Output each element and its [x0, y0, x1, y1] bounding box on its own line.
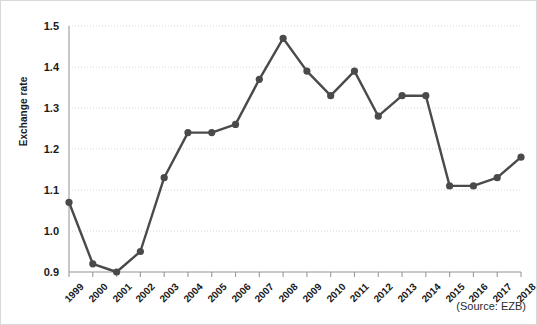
data-point[interactable] [256, 76, 263, 83]
data-point[interactable] [446, 182, 453, 189]
data-point[interactable] [184, 129, 191, 136]
data-point[interactable] [494, 174, 501, 181]
data-line [69, 38, 521, 272]
gridlines-group [69, 26, 521, 272]
data-point[interactable] [517, 154, 524, 161]
data-point[interactable] [280, 35, 287, 42]
data-point-markers-group [65, 35, 524, 276]
chart-figure: Exchange rate 0.91.01.11.21.31.41.5 1999… [0, 0, 537, 325]
data-point[interactable] [137, 248, 144, 255]
data-point[interactable] [398, 92, 405, 99]
source-note: (Source: EZB) [456, 300, 526, 312]
data-point[interactable] [351, 68, 358, 75]
x-tick-marks-group [69, 272, 521, 277]
data-point[interactable] [65, 199, 72, 206]
data-point[interactable] [232, 121, 239, 128]
data-point[interactable] [208, 129, 215, 136]
data-point[interactable] [89, 260, 96, 267]
data-point[interactable] [303, 68, 310, 75]
y-tick-label: 1.4 [44, 61, 59, 73]
y-tick-label: 1.5 [44, 20, 59, 32]
y-tick-label: 1.3 [44, 102, 59, 114]
data-point[interactable] [422, 92, 429, 99]
line-chart-plot [1, 1, 537, 325]
data-point[interactable] [161, 174, 168, 181]
data-point[interactable] [327, 92, 334, 99]
y-tick-label: 1.2 [44, 143, 59, 155]
y-tick-label: 0.9 [44, 266, 59, 278]
y-tick-label: 1.0 [44, 225, 59, 237]
data-point[interactable] [375, 113, 382, 120]
data-point[interactable] [470, 182, 477, 189]
data-point[interactable] [113, 268, 120, 275]
y-tick-label: 1.1 [44, 184, 59, 196]
